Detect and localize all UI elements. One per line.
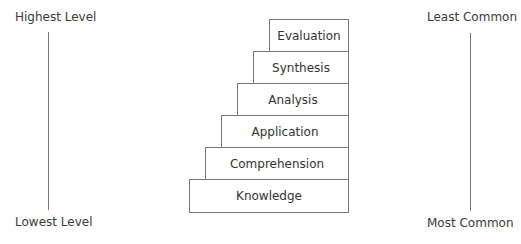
lowest-level-label: Lowest Level: [15, 215, 92, 229]
left-axis-line: [48, 32, 49, 210]
step-synthesis: Synthesis: [253, 51, 349, 84]
step-analysis: Analysis: [237, 83, 349, 116]
step-label: Evaluation: [277, 29, 340, 43]
least-common-label: Least Common: [427, 10, 517, 24]
highest-level-label: Highest Level: [15, 10, 96, 24]
most-common-label: Most Common: [427, 216, 514, 230]
step-label: Analysis: [268, 93, 317, 107]
right-axis-line: [470, 33, 471, 211]
step-comprehension: Comprehension: [205, 147, 349, 180]
step-knowledge: Knowledge: [189, 179, 349, 213]
step-label: Synthesis: [272, 61, 330, 75]
step-label: Application: [251, 125, 318, 139]
step-evaluation: Evaluation: [269, 19, 349, 52]
step-application: Application: [221, 115, 349, 148]
step-label: Knowledge: [236, 189, 302, 203]
step-label: Comprehension: [230, 157, 324, 171]
